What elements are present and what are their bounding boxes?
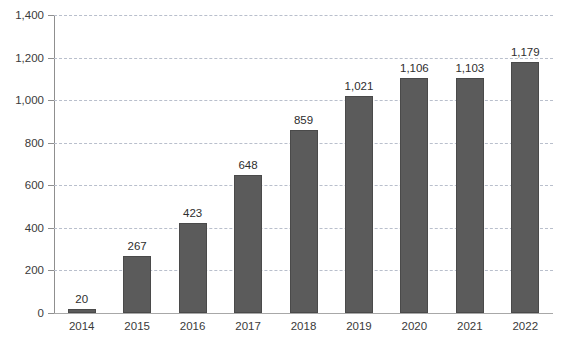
bar-group[interactable]: 1,179 bbox=[511, 15, 539, 313]
y-axis-tick-label: 800 bbox=[0, 137, 44, 149]
bar-chart: 02004006008001,0001,2001,400 20267423648… bbox=[0, 0, 563, 345]
x-axis-tick-label: 2015 bbox=[109, 320, 165, 332]
bar-group[interactable]: 423 bbox=[179, 15, 207, 313]
bar-value-label: 423 bbox=[183, 207, 202, 219]
bar-value-label: 1,021 bbox=[345, 80, 374, 92]
y-axis-tick-label: 0 bbox=[0, 307, 44, 319]
y-axis-tick-label: 200 bbox=[0, 264, 44, 276]
x-axis-tick-label: 2014 bbox=[54, 320, 110, 332]
bar-value-label: 1,106 bbox=[400, 62, 429, 74]
x-axis-tick-label: 2021 bbox=[442, 320, 498, 332]
bar[interactable] bbox=[400, 78, 428, 313]
bar-value-label: 20 bbox=[75, 293, 88, 305]
bar-value-label: 1,179 bbox=[511, 46, 540, 58]
x-axis-tick-label: 2018 bbox=[276, 320, 332, 332]
bar[interactable] bbox=[179, 223, 207, 313]
x-axis-tick-labels: 201420152016201720182019202020212022 bbox=[54, 320, 553, 340]
bar-group[interactable]: 1,106 bbox=[400, 15, 428, 313]
bar[interactable] bbox=[123, 256, 151, 313]
x-axis-tick-label: 2020 bbox=[386, 320, 442, 332]
bar[interactable] bbox=[345, 96, 373, 313]
y-axis-tick-label: 400 bbox=[0, 222, 44, 234]
bar[interactable] bbox=[290, 130, 318, 313]
bar-group[interactable]: 648 bbox=[234, 15, 262, 313]
x-axis-tick-label: 2019 bbox=[331, 320, 387, 332]
bar-group[interactable]: 20 bbox=[68, 15, 96, 313]
bar-value-label: 648 bbox=[238, 159, 257, 171]
bar-group[interactable]: 1,021 bbox=[345, 15, 373, 313]
bar[interactable] bbox=[68, 309, 96, 313]
plot-area: 202674236488591,0211,1061,1031,179 bbox=[54, 15, 553, 313]
bar-value-label: 859 bbox=[294, 114, 313, 126]
x-axis-tick-label: 2022 bbox=[497, 320, 553, 332]
bar-group[interactable]: 267 bbox=[123, 15, 151, 313]
bar[interactable] bbox=[456, 78, 484, 313]
bar[interactable] bbox=[511, 62, 539, 313]
bar-value-label: 267 bbox=[128, 240, 147, 252]
y-axis-tick-labels: 02004006008001,0001,2001,400 bbox=[0, 15, 44, 313]
x-axis-tick-label: 2016 bbox=[165, 320, 221, 332]
bar-group[interactable]: 859 bbox=[290, 15, 318, 313]
x-axis-tick-label: 2017 bbox=[220, 320, 276, 332]
bar[interactable] bbox=[234, 175, 262, 313]
y-axis-tick-label: 1,200 bbox=[0, 52, 44, 64]
bar-value-label: 1,103 bbox=[455, 62, 484, 74]
y-axis-tick-label: 1,000 bbox=[0, 94, 44, 106]
y-axis-tick-label: 1,400 bbox=[0, 9, 44, 21]
y-axis-tick-label: 600 bbox=[0, 179, 44, 191]
axis-baseline bbox=[54, 313, 553, 314]
bar-group[interactable]: 1,103 bbox=[456, 15, 484, 313]
